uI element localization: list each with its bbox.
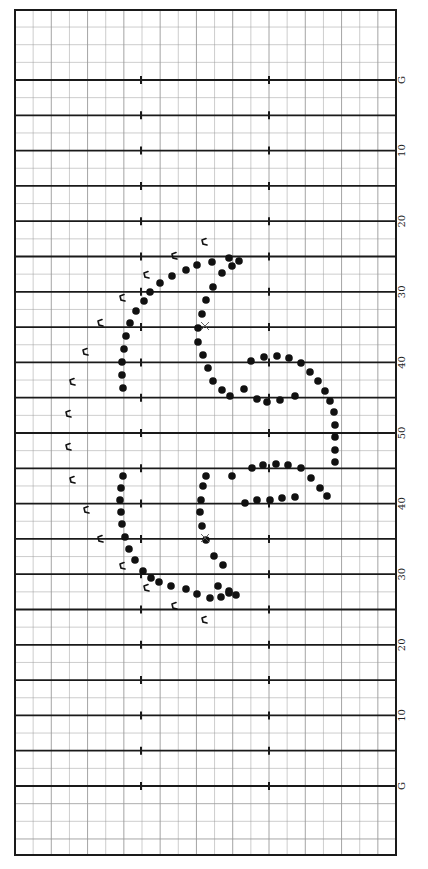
performer-dot bbox=[225, 587, 233, 595]
performer-dot bbox=[253, 496, 261, 504]
performer-dot bbox=[225, 254, 233, 262]
performer-dot bbox=[291, 493, 299, 501]
performer-dot bbox=[139, 567, 147, 575]
performer-dot bbox=[126, 319, 134, 327]
flag-icon bbox=[172, 603, 177, 610]
performer-dot bbox=[206, 594, 214, 602]
performer-dot bbox=[232, 591, 240, 599]
performer-dot bbox=[218, 386, 226, 394]
flag-icon bbox=[84, 507, 89, 514]
performer-dot bbox=[118, 520, 126, 528]
performer-dot bbox=[284, 461, 292, 469]
yard-label: 20 bbox=[396, 638, 407, 651]
performer-dot bbox=[273, 352, 281, 360]
performer-dot bbox=[204, 364, 212, 372]
performer-dot bbox=[193, 261, 201, 269]
performer-dot bbox=[306, 368, 314, 376]
yard-label: 40 bbox=[396, 356, 407, 369]
pivot-x-icon bbox=[201, 322, 209, 330]
flag-icon bbox=[202, 239, 207, 246]
performer-dot bbox=[116, 496, 124, 504]
performer-dot bbox=[331, 458, 339, 466]
performer-dot bbox=[199, 351, 207, 359]
yard-label: 20 bbox=[396, 215, 407, 228]
performer-dot bbox=[248, 464, 256, 472]
performer-dot bbox=[117, 508, 125, 516]
performer-dot bbox=[219, 561, 227, 569]
performer-dot bbox=[331, 446, 339, 454]
performer-dot bbox=[226, 392, 234, 400]
performer-dot bbox=[199, 482, 207, 490]
performer-dot bbox=[307, 474, 315, 482]
performer-dot bbox=[194, 324, 202, 332]
performer-dot bbox=[156, 279, 164, 287]
performer-dot bbox=[210, 552, 218, 560]
yard-label: 30 bbox=[396, 568, 407, 581]
performer-dot bbox=[259, 461, 267, 469]
performer-dot bbox=[272, 460, 280, 468]
yard-label: G bbox=[396, 782, 407, 790]
flag-icon bbox=[144, 585, 149, 592]
performer-dot bbox=[278, 494, 286, 502]
performer-dot bbox=[316, 484, 324, 492]
performer-dot bbox=[125, 545, 133, 553]
performer-dot bbox=[118, 358, 126, 366]
performer-dot bbox=[197, 496, 205, 504]
performer-dot bbox=[119, 472, 127, 480]
performer-dot bbox=[146, 288, 154, 296]
performer-dot bbox=[120, 345, 128, 353]
performer-dot bbox=[196, 508, 204, 516]
yard-label: 40 bbox=[396, 497, 407, 510]
performer-dot bbox=[140, 297, 148, 305]
performer-dot bbox=[323, 492, 331, 500]
performer-dot bbox=[209, 283, 217, 291]
performer-dot bbox=[209, 377, 217, 385]
performer-dot bbox=[247, 357, 255, 365]
performer-dot bbox=[263, 398, 271, 406]
performer-dot bbox=[314, 377, 322, 385]
performer-dot bbox=[198, 522, 206, 530]
flag-icon bbox=[144, 272, 149, 279]
performer-dot bbox=[276, 396, 284, 404]
performer-dot bbox=[117, 484, 125, 492]
performer-dot bbox=[193, 590, 201, 598]
yard-label: G bbox=[396, 76, 407, 84]
performer-dot bbox=[253, 395, 261, 403]
yard-label: 10 bbox=[396, 709, 407, 722]
flag-icon bbox=[70, 379, 75, 386]
performer-dot bbox=[331, 433, 339, 441]
performer-dot bbox=[228, 472, 236, 480]
performer-dot bbox=[235, 257, 243, 265]
performer-dot bbox=[118, 371, 126, 379]
performer-dot bbox=[182, 585, 190, 593]
performer-dot bbox=[217, 593, 225, 601]
performer-dot bbox=[291, 392, 299, 400]
performer-dot bbox=[202, 296, 210, 304]
yard-labels: G102030405040302010G bbox=[396, 76, 407, 790]
flag-icon bbox=[202, 617, 207, 624]
performer-dot bbox=[330, 408, 338, 416]
performer-dot bbox=[208, 258, 216, 266]
performer-dot bbox=[155, 578, 163, 586]
performer-dot bbox=[121, 533, 129, 541]
performer-dot bbox=[182, 266, 190, 274]
performer-dot bbox=[260, 353, 268, 361]
flag-icon bbox=[66, 411, 71, 418]
flag-icon bbox=[66, 444, 71, 451]
performer-dot bbox=[240, 385, 248, 393]
performer-dot bbox=[119, 384, 127, 392]
performer-dot bbox=[321, 387, 329, 395]
performer-dot bbox=[285, 354, 293, 362]
yard-label: 30 bbox=[396, 285, 407, 298]
performer-dot bbox=[194, 338, 202, 346]
performer-dot bbox=[214, 582, 222, 590]
performer-dot bbox=[331, 421, 339, 429]
yard-label: 10 bbox=[396, 144, 407, 157]
performer-dot bbox=[228, 262, 236, 270]
performer-dot bbox=[241, 499, 249, 507]
performer-dot bbox=[202, 472, 210, 480]
yard-label: 50 bbox=[396, 427, 407, 440]
performer-dot bbox=[168, 272, 176, 280]
performer-dot bbox=[122, 332, 130, 340]
performer-dot bbox=[326, 397, 334, 405]
